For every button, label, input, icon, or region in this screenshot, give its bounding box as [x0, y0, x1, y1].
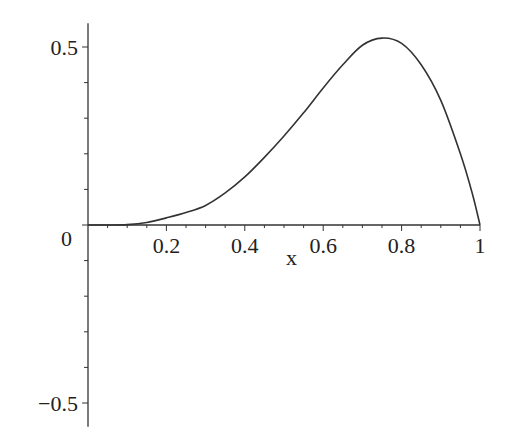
x-tick-label: 0.8	[388, 233, 416, 258]
data-curve	[88, 38, 480, 225]
y-tick-label: 0.5	[51, 35, 79, 60]
x-tick-label: 0.6	[309, 233, 337, 258]
y-tick-label: −0.5	[38, 391, 78, 416]
x-tick-label: 1	[475, 233, 486, 258]
x-tick-label: 0.4	[231, 233, 259, 258]
x-tick-label: 0.2	[153, 233, 181, 258]
y-tick-label: 0	[61, 226, 72, 251]
x-axis-label: x	[286, 245, 297, 270]
plot-area: 0.20.40.60.81−0.500.5 x	[0, 0, 509, 445]
